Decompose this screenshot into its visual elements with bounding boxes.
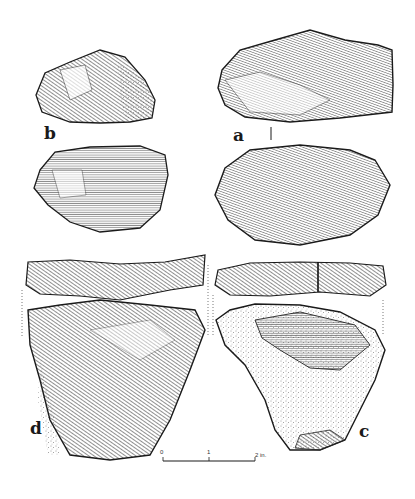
artifact-a-face [218, 30, 393, 122]
label-c: c [359, 423, 369, 440]
artifact-d-edge [26, 255, 205, 300]
artifact-plate [0, 0, 415, 499]
scale-label-0: 0 [160, 449, 163, 455]
scale-label-2in: 2 in. [255, 452, 266, 458]
artifact-c-edge [215, 262, 386, 296]
label-a: a [233, 127, 244, 144]
label-b: b [44, 125, 56, 142]
label-d: d [30, 420, 42, 437]
scale-label-1: 1 [207, 449, 210, 455]
artifact-a-reverse [215, 145, 390, 245]
artifact-b-face [36, 50, 155, 123]
artifact-d-face [28, 300, 205, 460]
artifact-b-reverse [34, 146, 168, 232]
scale-bar [163, 457, 255, 461]
